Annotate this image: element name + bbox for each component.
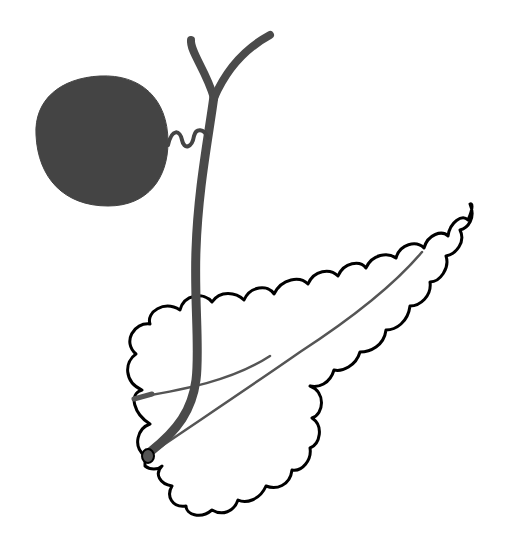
cystic-duct (168, 130, 208, 146)
left-hepatic-duct (214, 35, 270, 98)
right-hepatic-duct (191, 40, 214, 98)
ampulla (142, 449, 154, 463)
biliary-pancreatic-diagram (0, 0, 505, 551)
pancreas (128, 204, 472, 515)
diagram-canvas: Hepatobiliary and pancreatic duct system (0, 0, 505, 551)
gallbladder (36, 76, 168, 206)
